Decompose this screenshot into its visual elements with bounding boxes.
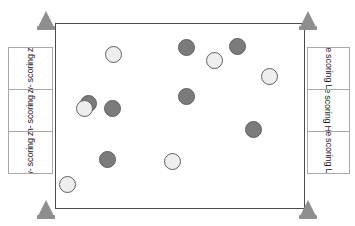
zone-left-bottom: Low-scoringzone — [9, 132, 52, 173]
zone-label-line: Low- — [323, 169, 334, 173]
disc-dark-4 — [104, 100, 121, 117]
zone-right-top: Low-scoringzone — [308, 48, 349, 90]
zone-label-line: zone — [25, 90, 36, 93]
zone-label-line: scoring — [323, 95, 334, 123]
zone-label-line: zone — [25, 48, 36, 52]
zone-label-line: Low- — [25, 169, 36, 173]
zone-right-bottom-text: Low-scoringzone — [323, 132, 334, 173]
disc-dark-3 — [178, 88, 195, 105]
disc-light-3 — [261, 68, 278, 85]
zone-label-line: zone — [323, 132, 334, 136]
disc-dark-6 — [99, 151, 116, 168]
cone-top-left-base — [37, 26, 55, 30]
zone-label-line: zone — [323, 90, 334, 93]
zone-label-line: zone — [25, 132, 36, 136]
zone-label-line: zone — [323, 48, 334, 52]
disc-dark-5 — [245, 121, 262, 138]
zone-left-bottom-text: Low-scoringzone — [25, 132, 36, 173]
zone-right-middle-text: High-scoringzone — [323, 90, 334, 132]
zone-right-middle: High-scoringzone — [308, 90, 349, 132]
diagram-canvas: Low-scoringzoneHigh-scoringzoneLow-scori… — [0, 0, 355, 226]
cone-bottom-left-triangle — [38, 200, 54, 216]
zone-right-bottom: Low-scoringzone — [308, 132, 349, 173]
cone-bottom-right-triangle — [300, 200, 316, 216]
cone-bottom-left-base — [37, 215, 55, 219]
cone-bottom-right-base — [299, 215, 317, 219]
zone-right-top-text: Low-scoringzone — [323, 48, 334, 90]
left-zone-label-column: Low-scoringzoneHigh-scoringzoneLow-scori… — [8, 47, 53, 174]
disc-dark-1 — [178, 39, 195, 56]
zone-left-top: Low-scoringzone — [9, 48, 52, 90]
zone-label-line: scoring — [25, 95, 36, 123]
disc-light-2 — [206, 52, 223, 69]
cone-top-left-triangle — [38, 11, 54, 27]
zone-left-middle-text: High-scoringzone — [25, 90, 36, 132]
cone-top-right-triangle — [300, 11, 316, 27]
disc-light-5 — [164, 153, 181, 170]
right-zone-label-column: Low-scoringzoneHigh-scoringzoneLow-scori… — [307, 47, 350, 174]
disc-dark-2 — [229, 38, 246, 55]
disc-light-1 — [105, 46, 122, 63]
disc-light-4 — [76, 100, 93, 117]
cone-top-right-base — [299, 26, 317, 30]
zone-left-middle: High-scoringzone — [9, 90, 52, 132]
zone-label-line: scoring — [323, 138, 334, 166]
zone-left-top-text: Low-scoringzone — [25, 48, 36, 90]
disc-light-6 — [59, 176, 76, 193]
zone-label-line: scoring — [25, 138, 36, 166]
zone-label-line: scoring — [25, 54, 36, 82]
zone-label-line: scoring — [323, 54, 334, 82]
